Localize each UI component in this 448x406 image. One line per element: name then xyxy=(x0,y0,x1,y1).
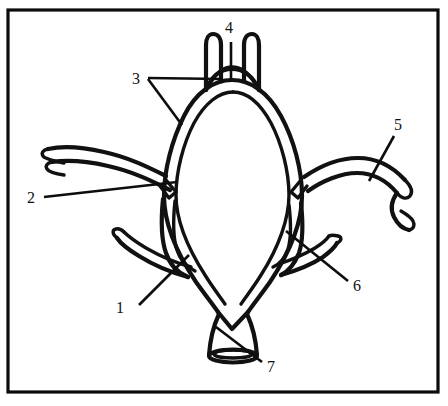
leader-line-6 xyxy=(286,231,348,281)
leader-line-3a xyxy=(148,78,223,79)
label-number-7: 7 xyxy=(267,358,275,375)
ring-left-inner-wall xyxy=(176,92,233,304)
ring-right-inner-wall xyxy=(233,92,289,304)
inferior-trunk-right-edge xyxy=(247,314,257,355)
anatomy-diagram-svg: 1 2 3 4 5 6 7 xyxy=(0,0,448,406)
leader-line-2 xyxy=(44,182,177,197)
leader-line-3b xyxy=(148,79,182,125)
right-hook-branch-cap xyxy=(329,235,341,243)
right-middle-stub-cut-end xyxy=(291,180,307,198)
label-number-6: 6 xyxy=(353,277,361,294)
label-number-5: 5 xyxy=(394,116,402,133)
right-lateral-vessel-lower-edge xyxy=(308,173,397,193)
label-number-3: 3 xyxy=(132,70,140,87)
right-fork-upper-prong xyxy=(397,180,411,198)
label-number-4: 4 xyxy=(225,19,233,36)
label-number-2: 2 xyxy=(27,189,35,206)
inferior-trunk-left-edge xyxy=(209,314,219,355)
inferior-apex-v xyxy=(218,312,248,329)
label-number-1: 1 xyxy=(116,299,124,316)
figure-root: 1 2 3 4 5 6 7 xyxy=(0,0,448,406)
vessel-drawing xyxy=(42,34,414,363)
right-lateral-vessel-upper-edge xyxy=(304,158,405,180)
